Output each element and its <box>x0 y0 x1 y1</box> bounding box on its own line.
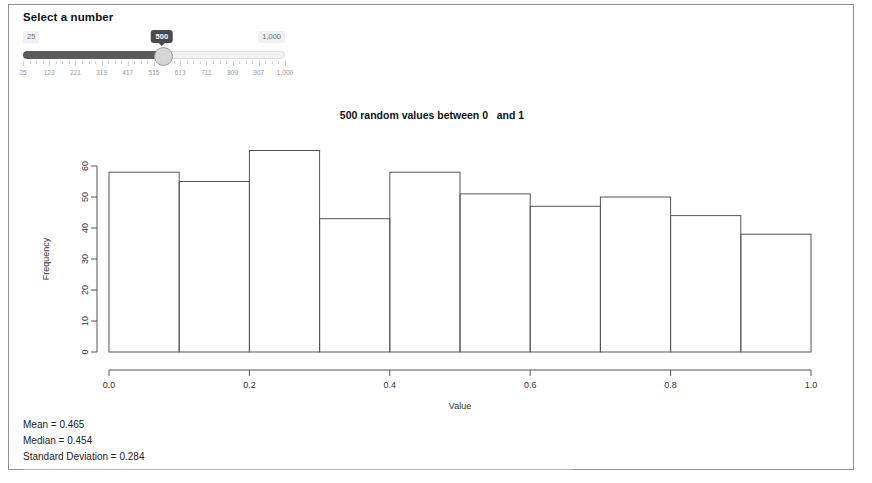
histogram-bar <box>320 219 390 352</box>
slider-max-label: 1,000 <box>258 31 285 43</box>
slider-tick-labels: 251232213194175156137118099071,000 <box>23 69 285 81</box>
slider-tick <box>75 61 76 66</box>
chart-title: 500 random values between 0 and 1 <box>9 109 855 121</box>
slider-minor-tick <box>200 61 201 64</box>
slider-tick-label: 417 <box>122 69 133 76</box>
chart-canvas: 0102030405060Frequency0.00.20.40.60.81.0… <box>9 93 855 413</box>
histogram-bar <box>600 197 670 352</box>
slider-minor-tick <box>95 61 96 64</box>
bottom-divider <box>23 469 573 470</box>
x-axis-tick-label: 0.8 <box>664 380 677 390</box>
slider-minor-tick <box>62 61 63 64</box>
y-axis-tick-label: 20 <box>80 285 90 295</box>
histogram-bar <box>741 234 811 352</box>
x-axis-tick-label: 0.2 <box>243 380 256 390</box>
slider-tick <box>206 61 207 66</box>
slider-minor-tick <box>36 61 37 64</box>
slider-tick <box>154 61 155 66</box>
x-axis-tick-label: 0.6 <box>524 380 537 390</box>
slider-tick <box>128 61 129 66</box>
slider-tick-label: 1,000 <box>277 69 293 76</box>
slider-minor-tick <box>252 61 253 64</box>
slider-minor-tick <box>30 61 31 64</box>
y-axis-tick-label: 60 <box>80 161 90 171</box>
slider-minor-tick <box>226 61 227 64</box>
slider-minor-tick <box>272 61 273 64</box>
x-axis-title: Value <box>449 401 471 411</box>
slider-tick <box>233 61 234 66</box>
slider-tick-label: 123 <box>44 69 55 76</box>
slider-value-bubble: 500 <box>151 30 174 43</box>
y-axis-tick-label: 50 <box>80 192 90 202</box>
slider-minor-tick <box>167 61 168 64</box>
slider-tick-label: 613 <box>175 69 186 76</box>
histogram-plot: 500 random values between 0 and 1 010203… <box>9 93 855 413</box>
slider-minor-tick <box>89 61 90 64</box>
slider-tick <box>102 61 103 66</box>
histogram-bar <box>390 172 460 352</box>
slider-tick-label: 25 <box>19 69 26 76</box>
y-axis-tick-label: 10 <box>80 316 90 326</box>
histogram-bar <box>109 172 179 352</box>
slider-tick-label: 319 <box>96 69 107 76</box>
histogram-bar <box>179 182 249 353</box>
slider-minor-tick <box>115 61 116 64</box>
y-axis-title: Frequency <box>41 237 51 280</box>
y-axis-tick-label: 40 <box>80 223 90 233</box>
slider-tick <box>259 61 260 66</box>
x-axis-tick-label: 0.0 <box>103 380 116 390</box>
slider-minor-tick <box>56 61 57 64</box>
panel-title: Select a number <box>23 11 301 23</box>
slider-tick-label: 515 <box>149 69 160 76</box>
slider-tick <box>285 61 286 66</box>
slider-tick <box>23 61 24 66</box>
slider-tick-label: 221 <box>70 69 81 76</box>
slider-minor-tick <box>161 61 162 64</box>
x-axis-tick-label: 1.0 <box>805 380 818 390</box>
slider-minor-tick <box>147 61 148 64</box>
slider-tick-marks <box>23 61 285 68</box>
x-axis-tick-label: 0.4 <box>384 380 397 390</box>
summary-statistics: Mean = 0.465 Median = 0.454 Standard Dev… <box>23 417 343 465</box>
slider-tick <box>180 61 181 66</box>
slider-minor-tick <box>82 61 83 64</box>
number-slider[interactable]: 25 1,000 500 251232213194175156137118099… <box>23 31 285 89</box>
slider-minor-tick <box>69 61 70 64</box>
slider-minor-tick <box>141 61 142 64</box>
stat-standard-deviation: Standard Deviation = 0.284 <box>23 449 343 465</box>
slider-min-label: 25 <box>23 31 39 43</box>
slider-tick-label: 711 <box>201 69 211 76</box>
slider-fill <box>23 51 162 59</box>
app-window: Select a number 25 1,000 500 25123221319… <box>8 4 854 470</box>
slider-minor-tick <box>187 61 188 64</box>
histogram-bar <box>460 194 530 352</box>
histogram-bar <box>530 206 600 352</box>
slider-minor-tick <box>213 61 214 64</box>
slider-minor-tick <box>278 61 279 64</box>
slider-minor-tick <box>43 61 44 64</box>
y-axis-tick-label: 30 <box>80 254 90 264</box>
histogram-bar <box>249 151 319 353</box>
y-axis-tick-label: 0 <box>80 349 90 354</box>
slider-minor-tick <box>265 61 266 64</box>
slider-tick <box>49 61 50 66</box>
slider-minor-tick <box>220 61 221 64</box>
slider-minor-tick <box>121 61 122 64</box>
slider-minor-tick <box>193 61 194 64</box>
slider-minor-tick <box>239 61 240 64</box>
histogram-bar <box>671 216 741 352</box>
slider-minor-tick <box>174 61 175 64</box>
slider-minor-tick <box>134 61 135 64</box>
slider-panel: Select a number 25 1,000 500 25123221319… <box>21 11 301 89</box>
slider-minor-tick <box>108 61 109 64</box>
slider-tick-label: 907 <box>253 69 264 76</box>
slider-minor-tick <box>246 61 247 64</box>
stat-median: Median = 0.454 <box>23 433 343 449</box>
slider-tick-label: 809 <box>227 69 238 76</box>
stat-mean: Mean = 0.465 <box>23 417 343 433</box>
